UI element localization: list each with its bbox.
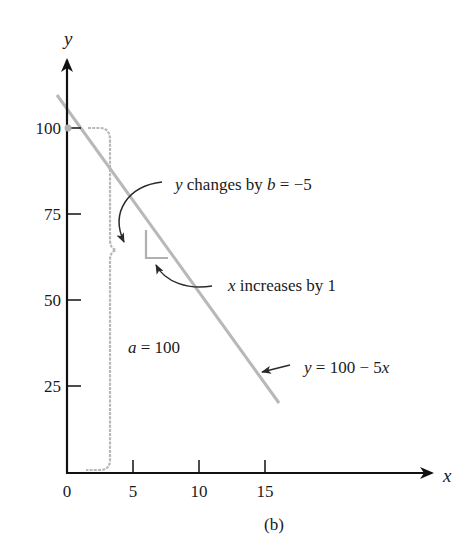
y-tick-label: 75: [44, 205, 61, 224]
y-axis-label: y: [62, 28, 73, 49]
run-arrow: [156, 265, 212, 287]
intercept-point: [65, 125, 72, 132]
line-label-arrow: [262, 365, 290, 372]
x-tick-label: 5: [129, 482, 138, 501]
line-equation-label: y = 100 − 5x: [302, 358, 390, 377]
y-tick-label: 25: [44, 377, 61, 396]
x-axis-label: x: [442, 465, 452, 486]
chart-figure: y x 100 75 50 25 0 5 10 15 y changes by …: [0, 0, 468, 559]
slope-annotation: y changes by b = −5: [173, 175, 312, 194]
y-tick-label: 100: [36, 119, 62, 138]
figure-caption: (b): [264, 515, 284, 534]
y-tick-label: 50: [44, 291, 61, 310]
x-tick-label: 10: [191, 482, 208, 501]
y-ticks: [67, 128, 81, 386]
x-ticks: [133, 460, 265, 473]
run-annotation: x increases by 1: [227, 276, 336, 295]
intercept-annotation: a = 100: [128, 338, 180, 357]
intercept-brace: [86, 128, 116, 470]
x-tick-label: 15: [257, 482, 274, 501]
x-tick-label: 0: [63, 482, 72, 501]
